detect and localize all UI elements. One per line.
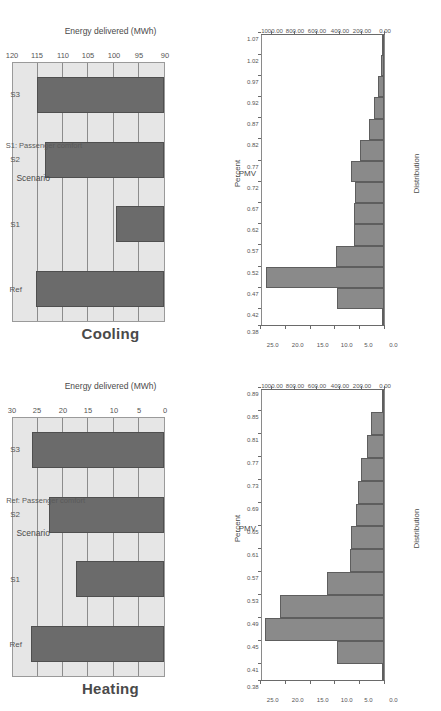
- x-tick-label: 0.85: [247, 414, 259, 420]
- bar: [32, 432, 164, 468]
- distribution-tick-label: 400.00: [331, 383, 349, 389]
- panel-heating: Heating 302520151050 Energy delivered (M…: [0, 355, 221, 711]
- plot-area-cooling: [12, 62, 165, 322]
- distribution-tick-label: 0.00: [379, 383, 391, 389]
- distribution-tick: [361, 386, 362, 389]
- x-axis-label-cooling: Scenario: [16, 173, 50, 183]
- y-axis-label-cooling: Energy delivered (MWh): [0, 26, 221, 36]
- distribution-tick-label: 1000.00: [261, 28, 283, 34]
- x-tick: [258, 96, 261, 97]
- percent-tick-label: 20.0: [292, 697, 304, 703]
- histogram-ref: 0.380.410.450.490.530.570.610.650.690.73…: [221, 355, 441, 711]
- x-tick-label: 0.38: [247, 329, 259, 335]
- histogram-bar: [371, 412, 384, 435]
- histogram-bar: [382, 664, 384, 681]
- distribution-tick: [271, 386, 272, 389]
- x-tick-label: 0.57: [247, 248, 259, 254]
- x-tick-label: 0.53: [247, 598, 259, 604]
- histogram-bar: [381, 55, 384, 76]
- chart-title-cooling: Cooling: [0, 325, 221, 342]
- panel-note-cooling: S1: Passenger comfort: [6, 141, 82, 150]
- x-tick: [258, 181, 261, 182]
- y-tick-label: 105: [82, 51, 95, 60]
- bar: [37, 77, 164, 113]
- histogram-bar: [382, 389, 384, 412]
- y-tick-label: 20: [59, 406, 67, 415]
- x-tick: [258, 244, 261, 245]
- histogram-bar: [360, 140, 384, 161]
- panel-hist-s1: 0.380.420.470.520.570.620.670.720.770.82…: [221, 0, 441, 356]
- histogram-bar: [336, 246, 384, 267]
- percent-tick-label: 15.0: [316, 342, 328, 348]
- x-axis-line-hist-ref: [261, 389, 385, 390]
- y-tick-label: 0: [163, 406, 167, 415]
- y-tick-label: 90: [161, 51, 169, 60]
- x-tick-label: 0.89: [247, 391, 259, 397]
- distribution-tick: [294, 386, 295, 389]
- x-tick: [258, 287, 261, 288]
- x-tick: [258, 479, 261, 480]
- x-tick: [258, 640, 261, 641]
- x-tick-label: 0.49: [247, 621, 259, 627]
- x-tick-label: 0.52: [247, 270, 259, 276]
- percent-tick-label: 5.0: [364, 697, 372, 703]
- y-axis-label-heating: Energy delivered (MWh): [0, 381, 221, 391]
- histogram-bar: [355, 182, 384, 203]
- y-tick-label: 95: [135, 51, 143, 60]
- panel-note-heating: Ref: Passenger comfort: [6, 496, 85, 505]
- x-tick: [258, 502, 261, 503]
- x-axis-label-heating: Scenario: [16, 528, 50, 538]
- x-tick-label: 0.87: [247, 121, 259, 127]
- secondary-axis-label-hist-s1: Percent: [232, 160, 241, 188]
- x-tick-label: 0.92: [247, 100, 259, 106]
- x-tick-label: 0.41: [247, 667, 259, 673]
- x-tick-label: 0.82: [247, 142, 259, 148]
- distribution-tick-label: 400.00: [331, 28, 349, 34]
- y-axis-label-hist-s1: Distribution: [412, 153, 421, 193]
- x-tick: [258, 308, 261, 309]
- histogram-bar: [356, 504, 384, 527]
- distribution-tick: [384, 386, 385, 389]
- x-tick-label: 0.38: [247, 684, 259, 690]
- x-tick-label: 1.07: [247, 36, 259, 42]
- percent-tick: [359, 681, 360, 684]
- x-tick-label: 0.72: [247, 185, 259, 191]
- histogram-bar: [378, 76, 384, 97]
- x-tick-label: 0.62: [247, 227, 259, 233]
- distribution-tick: [339, 386, 340, 389]
- percent-tick: [334, 681, 335, 684]
- x-tick: [258, 160, 261, 161]
- bars-cooling: [13, 63, 164, 321]
- percent-tick: [310, 326, 311, 329]
- plot-area-hist-s1: [261, 34, 385, 326]
- x-tick-label: 0.69: [247, 506, 259, 512]
- distribution-tick-label: 800.00: [286, 383, 304, 389]
- percent-tick: [359, 326, 360, 329]
- x-tick: [258, 266, 261, 267]
- y-tick-label: 25: [33, 406, 41, 415]
- bar-chart-cooling: Cooling 1201151101051009590 Energy deliv…: [0, 0, 221, 356]
- histogram-bar: [361, 458, 384, 481]
- secondary-axis-line-hist-s1: [261, 325, 385, 326]
- y-axis-ticks-cooling: 1201151101051009590: [12, 46, 165, 60]
- y-tick-label: 120: [6, 51, 19, 60]
- histogram-bar: [354, 224, 384, 245]
- y-tick-label: 110: [57, 51, 69, 60]
- panel-hist-ref: 0.380.410.450.490.530.570.610.650.690.73…: [221, 355, 441, 711]
- secondary-axis-line-hist-ref: [261, 680, 385, 681]
- distribution-tick: [294, 31, 295, 34]
- y-tick-label: 30: [8, 406, 16, 415]
- y-tick-label: 100: [108, 51, 121, 60]
- bar: [31, 626, 164, 662]
- histogram-bar: [382, 309, 384, 326]
- distribution-tick-label: 600.00: [308, 28, 326, 34]
- distribution-tick: [361, 31, 362, 34]
- percent-tick: [334, 326, 335, 329]
- distribution-tick: [271, 31, 272, 34]
- x-tick-label: 0.77: [247, 460, 259, 466]
- distribution-tick-label: 200.00: [353, 383, 371, 389]
- x-tick-label: 0.61: [247, 552, 259, 558]
- x-tick: [258, 138, 261, 139]
- distribution-tick: [339, 31, 340, 34]
- histogram-bar: [351, 161, 384, 182]
